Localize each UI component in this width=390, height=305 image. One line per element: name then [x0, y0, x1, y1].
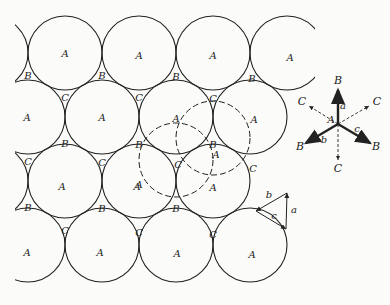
close-packing-diagram: AAAAAAAAAAAAAAAAABBBBBBBBBBCCCCCCCCCC ab… [0, 0, 390, 305]
site-label-b: B [60, 138, 68, 149]
site-label-c: C [24, 156, 32, 167]
site-label-b: B [171, 71, 179, 82]
site-label-b: B [171, 203, 179, 214]
site-label-a: A [134, 50, 142, 61]
site-label-a: A [57, 181, 65, 192]
site-label-a: A [60, 48, 68, 59]
site-label-a: A [208, 50, 216, 61]
site-label-c: C [98, 157, 106, 168]
triangle-label: b [266, 189, 272, 200]
site-label-a: A [97, 112, 105, 123]
triangle-label: a [291, 204, 297, 215]
site-label-c: C [135, 92, 143, 103]
sphere-a [65, 208, 139, 282]
site-label-c: C [174, 159, 182, 170]
origin-label: A [326, 114, 334, 125]
site-label-c: C [249, 163, 257, 174]
site-label-b: B [247, 73, 255, 84]
site-label-c: C [209, 93, 217, 104]
site-label-c: C [209, 229, 217, 240]
site-label-a: A [172, 248, 180, 259]
site-label-a: A [249, 114, 257, 125]
vector-end-label: B [295, 140, 304, 153]
site-label-a: A [22, 112, 30, 123]
vector-end-label: B [333, 74, 342, 87]
site-label-b: B [97, 203, 105, 214]
site-label-b: B [208, 139, 216, 150]
vector-end-label: C [373, 95, 382, 108]
sphere-layer-a [0, 16, 324, 282]
site-label-b: B [23, 70, 31, 81]
site-label-a: A [208, 182, 216, 193]
sphere-a [0, 80, 65, 154]
site-label-c: C [135, 227, 143, 238]
vector-label: c [354, 123, 360, 134]
site-label-c: C [61, 92, 69, 103]
site-label-a: A [134, 179, 142, 190]
vector-label: a [340, 100, 346, 111]
sphere-a [0, 208, 65, 282]
vector-end-label: C [334, 162, 343, 175]
site-label-b: B [134, 139, 142, 150]
triangle-label: c [271, 210, 277, 221]
sphere-a [139, 208, 213, 282]
site-label-b: B [97, 70, 105, 81]
vector-triangle: bac [256, 189, 297, 229]
site-label-a: A [247, 249, 255, 260]
site-label-b: B [23, 202, 31, 213]
site-label-a: A [285, 52, 293, 63]
site-label-a: A [95, 247, 103, 258]
site-label-c: C [61, 225, 69, 236]
vector-end-label: B [371, 140, 380, 153]
site-label-a: A [22, 247, 30, 258]
vector-end-label: C [298, 95, 307, 108]
site-label-a: A [171, 113, 179, 124]
lattice-vector-diagram: abcBBBCCCA [295, 74, 382, 175]
site-label-a: A [211, 149, 219, 160]
vector-label: b [321, 134, 327, 145]
